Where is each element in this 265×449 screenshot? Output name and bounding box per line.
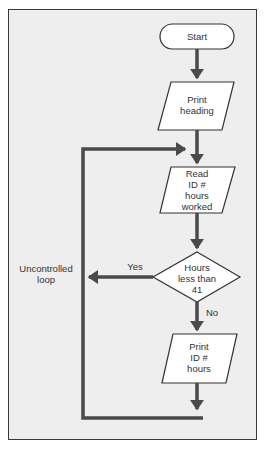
decision-line-3: 41	[160, 284, 234, 295]
yes-label: Yes	[120, 261, 150, 272]
uncontrolled-loop-label: Uncontrolled loop	[12, 263, 80, 285]
print-id-line-2: ID #	[162, 352, 236, 363]
start-label: Start	[160, 31, 234, 42]
print-heading-line-2: heading	[160, 105, 234, 116]
decision-line-1: Hours	[160, 262, 234, 273]
read-line-2: ID #	[160, 179, 234, 190]
print-id-line-3: hours	[162, 363, 236, 374]
read-label: Read ID # hours worked	[160, 168, 234, 212]
print-id-label: Print ID # hours	[162, 341, 236, 374]
no-label: No	[202, 307, 222, 318]
loop-line-2: loop	[12, 274, 80, 285]
decision-line-2: less than	[160, 273, 234, 284]
flowchart-canvas	[0, 0, 265, 449]
read-line-1: Read	[160, 168, 234, 179]
loop-line-1: Uncontrolled	[12, 263, 80, 274]
read-line-4: worked	[160, 201, 234, 212]
print-heading-line-1: Print	[160, 94, 234, 105]
print-heading-label: Print heading	[160, 94, 234, 116]
decision-label: Hours less than 41	[160, 262, 234, 295]
read-line-3: hours	[160, 190, 234, 201]
print-id-line-1: Print	[162, 341, 236, 352]
